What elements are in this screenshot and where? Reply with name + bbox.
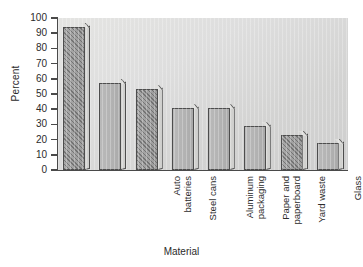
y-axis-tick-label: 80	[0, 42, 47, 53]
bar-side-face	[230, 107, 235, 170]
y-axis-tick-label: 90	[0, 27, 47, 38]
bar	[99, 83, 121, 170]
bar-side-face	[339, 141, 344, 170]
y-axis-tick-label: 10	[0, 149, 47, 160]
bar-side-face	[303, 134, 308, 170]
bar-front-face	[208, 108, 230, 170]
bar-front-face	[63, 27, 85, 170]
bar-side-face	[266, 125, 271, 170]
y-axis-tick-label: 0	[0, 164, 47, 175]
y-axis-tick-label: 70	[0, 58, 47, 69]
bar-side-face	[158, 88, 163, 170]
bar-chart-figure: Percent 0102030405060708090100 Auto batt…	[0, 0, 363, 267]
y-axis-tick-label: 40	[0, 103, 47, 114]
bar	[208, 108, 230, 170]
bar-side-face	[85, 26, 90, 170]
plot-area	[57, 18, 348, 171]
bar	[281, 135, 303, 170]
bar	[317, 143, 339, 170]
bar-front-face	[244, 126, 266, 170]
bar-side-face	[194, 107, 199, 170]
bar	[136, 89, 158, 170]
bar	[244, 126, 266, 170]
bar-front-face	[99, 83, 121, 170]
y-axis-tick-label: 100	[0, 12, 47, 23]
bar-front-face	[281, 135, 303, 170]
bar	[63, 27, 85, 170]
bar-front-face	[172, 108, 194, 170]
y-axis-tick-label: 30	[0, 118, 47, 129]
x-axis-title: Material	[0, 246, 363, 257]
bar-side-face	[121, 82, 126, 170]
y-axis-tick-label: 20	[0, 134, 47, 145]
y-axis-tick-label: 50	[0, 88, 47, 99]
bar-front-face	[317, 143, 339, 170]
y-axis-tick-label: 60	[0, 73, 47, 84]
bar-front-face	[136, 89, 158, 170]
bar	[172, 108, 194, 170]
